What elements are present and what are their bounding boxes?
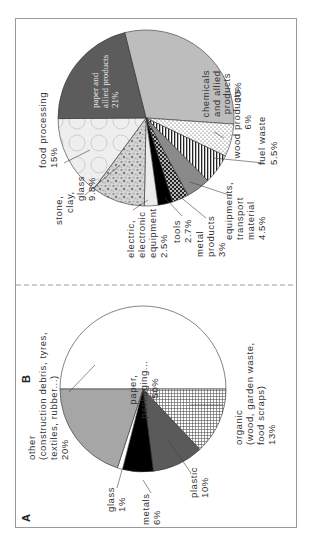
label-food-processing: food processing (37, 92, 48, 168)
svg-text:metals 6%: metals 6% (140, 490, 162, 525)
label-glass: glass (105, 487, 116, 512)
label-wood-products: wood products (231, 89, 242, 160)
label-other: other (26, 435, 37, 460)
panel-label-a: A (20, 514, 32, 522)
pie-chart-b: chemicals and allied products 30% wood p… (37, 30, 279, 258)
label-electric: electric, (125, 220, 136, 258)
panel-label-b: B (20, 375, 32, 383)
svg-text:organic (wood, garden: organic (wood, garden waste, food scraps… (233, 339, 277, 445)
svg-text:glass 1%: glass 1% (105, 484, 127, 512)
label-metals: metals (140, 493, 151, 525)
svg-text:stone, clay, g: stone, clay, glass 9.8% (53, 173, 97, 225)
label-metal-products: metal (194, 231, 205, 257)
figure: chemicals and allied products 30% wood p… (0, 0, 310, 537)
label-stone-clay-glass: stone, (53, 196, 64, 225)
label-plastic: plastic (188, 467, 199, 498)
pie-chart-a: paper, packaging... 50% organic (wood, g… (26, 306, 277, 525)
label-paper-packaging: paper, (127, 375, 138, 405)
svg-text:fuel waste 5.5%: fuel waste 5.5% (256, 113, 279, 165)
label-fuel-waste: fuel waste (256, 116, 267, 165)
label-paper-allied: paper and (90, 72, 100, 108)
svg-text:food processing 15%: food processing 15% (37, 89, 59, 168)
label-equipments: equipments, (223, 182, 234, 240)
label-organic: organic (233, 410, 244, 445)
svg-text:electric, electronic: electric, electronic equipment 2.5% (125, 205, 169, 258)
svg-text:equipments, transport: equipments, transport material 4.5% (223, 178, 267, 240)
label-chemicals-1: chemicals (200, 70, 211, 118)
svg-text:plastic 10%: plastic 10% (188, 464, 210, 498)
label-tools: tools (171, 220, 182, 243)
svg-text:tools 2.7%: tools 2.7% (171, 217, 193, 243)
